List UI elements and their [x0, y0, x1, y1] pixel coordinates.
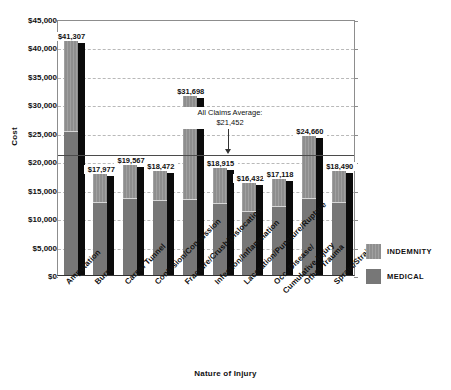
y-axis-ticks: $45,000$40,000$35,000$30,000$25,000$20,0… [0, 0, 57, 390]
legend-item-medical: MEDICAL [366, 269, 450, 284]
average-annotation-line1: All Claims Average: [184, 108, 276, 118]
y-tick-label: $25,000 [9, 129, 57, 138]
bar-segment-indemnity[interactable] [302, 135, 316, 198]
y-tick-mark-right [354, 135, 358, 136]
legend-item-indemnity: INDEMNITY [366, 244, 450, 259]
y-tick-label: $40,000 [9, 44, 57, 53]
bar-segment-indemnity[interactable] [213, 167, 227, 203]
bar-value-label: $17,118 [263, 170, 297, 179]
average-annotation-line2: $21,452 [184, 118, 276, 128]
bar-shadow [78, 43, 85, 275]
y-tick-mark [54, 249, 58, 250]
y-tick-mark-right [354, 49, 358, 50]
chart-legend: INDEMNITY MEDICAL [366, 244, 450, 294]
average-arrow-head [225, 149, 231, 154]
y-tick-mark [54, 21, 58, 22]
y-tick-label: $30,000 [9, 101, 57, 110]
y-tick-mark-right [354, 277, 358, 278]
bar-stack[interactable] [64, 40, 78, 275]
bar-segment-indemnity[interactable] [93, 173, 107, 203]
bar-segment-medical[interactable] [93, 202, 107, 275]
bar-segment-medical[interactable] [332, 202, 346, 275]
bar-value-label: $18,490 [323, 162, 357, 171]
bar-value-label: $41,307 [55, 32, 89, 41]
y-tick-mark [54, 106, 58, 107]
y-tick-label: $35,000 [9, 72, 57, 81]
y-tick-mark [54, 135, 58, 136]
bar-segment-medical[interactable] [123, 198, 137, 275]
y-tick-mark-right [354, 106, 358, 107]
y-tick-label: $15,000 [9, 186, 57, 195]
y-tick-label: $20,000 [9, 158, 57, 167]
y-tick-mark [54, 192, 58, 193]
average-annotation: All Claims Average:$21,452 [182, 107, 278, 129]
bar-chart: Cost $45,000$40,000$35,000$30,000$25,000… [0, 0, 451, 390]
bar-segment-medical[interactable] [64, 131, 78, 275]
bar-segment-indemnity[interactable] [242, 182, 256, 211]
y-tick-label: $10,000 [9, 215, 57, 224]
legend-swatch-medical [366, 269, 381, 284]
gridline [58, 78, 354, 79]
y-tick-mark-right [354, 21, 358, 22]
y-tick-label: $0 [9, 272, 57, 281]
bar-value-label: $18,915 [204, 159, 238, 168]
y-tick-mark [54, 277, 58, 278]
x-axis-title: Nature of Injury [0, 369, 451, 378]
y-tick-mark [54, 163, 58, 164]
legend-label-medical: MEDICAL [387, 272, 424, 281]
bar-value-label: $17,977 [84, 165, 118, 174]
y-tick-mark [54, 49, 58, 50]
bar-value-label: $18,472 [144, 162, 178, 171]
y-tick-label: $5,000 [9, 243, 57, 252]
bar-segment-indemnity[interactable] [332, 170, 346, 202]
bar-segment-indemnity[interactable] [64, 40, 78, 131]
bar-stack[interactable] [123, 164, 137, 275]
bar-shadow [107, 176, 114, 275]
y-tick-mark-right [354, 249, 358, 250]
y-tick-label: $45,000 [9, 16, 57, 25]
average-line [58, 155, 354, 156]
bar-segment-indemnity[interactable] [272, 178, 286, 206]
bar-segment-indemnity[interactable] [153, 170, 167, 200]
y-tick-mark [54, 220, 58, 221]
y-tick-mark-right [354, 78, 358, 79]
bar-value-label: $31,698 [174, 87, 208, 96]
y-tick-mark-right [354, 192, 358, 193]
bar-value-label: $24,660 [293, 127, 327, 136]
legend-swatch-indemnity [366, 244, 381, 259]
average-arrow-shaft [228, 129, 229, 150]
gridline [58, 49, 354, 50]
bar-segment-medical[interactable] [153, 200, 167, 275]
bar-segment-indemnity[interactable] [123, 164, 137, 198]
y-tick-mark [54, 78, 58, 79]
y-tick-mark-right [354, 220, 358, 221]
legend-label-indemnity: INDEMNITY [387, 247, 432, 256]
